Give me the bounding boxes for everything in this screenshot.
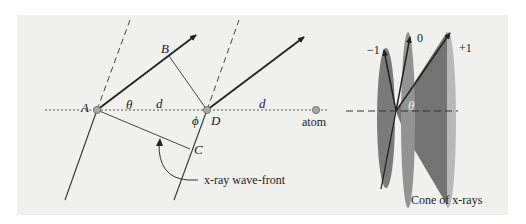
order-0-label: 0: [417, 32, 423, 44]
wavefront-pointer-arrowhead: [156, 138, 163, 146]
spacing-label-2: d: [259, 97, 266, 110]
line-b-d: [169, 56, 207, 110]
diffraction-figure: [0, 0, 526, 224]
line-a-c: [97, 110, 190, 149]
cone-theta-label: θ: [408, 99, 414, 112]
atom-d: [203, 106, 210, 113]
cone-0: [401, 32, 415, 208]
order-minus1-label: −1: [367, 44, 380, 56]
diffracted-ray-d: [207, 37, 304, 110]
incident-extension-d: [207, 20, 239, 110]
cone-minus1: [377, 48, 395, 188]
order-plus1-label: +1: [459, 42, 472, 54]
wavefront-pointer: [159, 143, 198, 180]
point-label-b: B: [161, 42, 169, 55]
point-label-d: D: [211, 114, 220, 127]
point-label-a: A: [81, 101, 89, 114]
wavefront-label: x-ray wave-front: [204, 174, 285, 186]
atom-third: [312, 106, 319, 113]
angle-theta-label: θ: [126, 98, 132, 111]
angle-phi-label: ϕ: [192, 114, 199, 127]
spacing-label-1: d: [156, 97, 163, 110]
cone-caption: Cone of x-rays: [411, 194, 482, 206]
atom-label: atom: [302, 116, 326, 128]
atom-a: [93, 106, 100, 113]
point-label-c: C: [194, 143, 203, 156]
incident-ray-a: [65, 110, 97, 200]
right-diagram: [346, 32, 458, 208]
